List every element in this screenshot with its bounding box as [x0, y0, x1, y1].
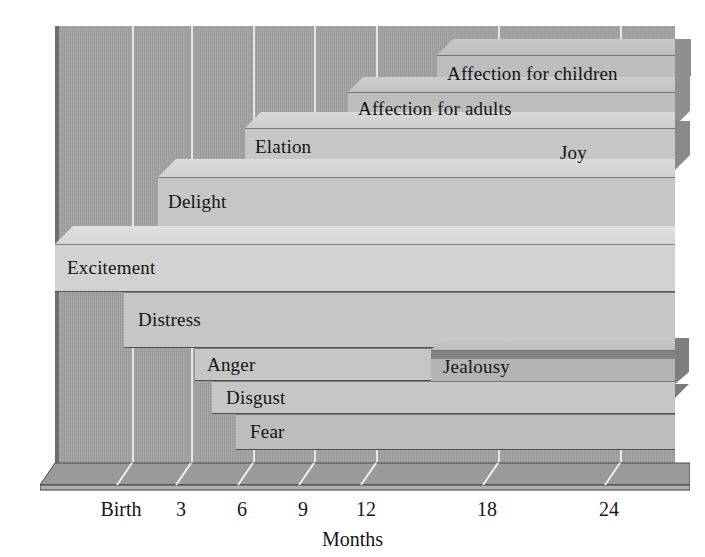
bar-face: Fear	[236, 414, 675, 450]
x-tick-9: 9	[298, 498, 308, 521]
bar-label: Excitement	[67, 257, 156, 279]
bar-label: Disgust	[226, 387, 285, 409]
bar-label: Jealousy	[443, 356, 510, 378]
bar-top-slab	[158, 159, 675, 177]
bar-label: Affection for adults	[358, 98, 512, 120]
chart-figure: Affection for children Affection for adu…	[0, 0, 705, 557]
x-tick-6: 6	[237, 498, 247, 521]
bar-label: Joy	[560, 142, 587, 164]
x-tick-birth: Birth	[100, 498, 141, 521]
bar-face: Excitement	[55, 244, 675, 292]
bar-side-slab	[675, 338, 689, 384]
bar-face: Jealousy	[431, 350, 675, 384]
bar-face: Disgust	[212, 381, 675, 414]
bar-top-slab	[431, 338, 675, 350]
bar-label: Elation	[255, 136, 311, 158]
x-tick-24: 24	[599, 498, 619, 521]
bar-label: Fear	[250, 421, 285, 443]
bar-side-slab	[675, 77, 690, 126]
bar-disgust[interactable]: Disgust	[212, 381, 675, 414]
bar-label: Affection for children	[447, 63, 618, 85]
bar-label: Distress	[138, 309, 201, 331]
bar-top-slab	[55, 226, 675, 244]
x-tick-18: 18	[477, 498, 497, 521]
bar-label: Delight	[168, 191, 226, 213]
bar-excitement[interactable]: Excitement	[55, 244, 675, 292]
bar-top-slab	[437, 39, 675, 55]
bar-face: Delight	[158, 177, 675, 227]
bar-delight[interactable]: Delight	[158, 177, 675, 227]
bar-jealousy[interactable]: Jealousy	[431, 350, 675, 384]
x-axis-title: Months	[0, 528, 705, 551]
bar-fear[interactable]: Fear	[236, 414, 675, 450]
bar-label: Anger	[207, 354, 255, 376]
x-tick-12: 12	[356, 498, 376, 521]
axis-base-plate	[40, 455, 690, 495]
x-tick-3: 3	[176, 498, 186, 521]
bar-side-slab	[675, 121, 690, 170]
